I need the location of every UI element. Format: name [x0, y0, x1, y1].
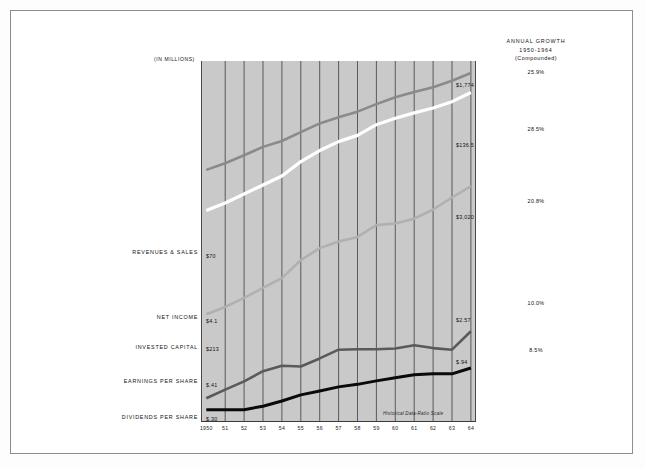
series-start-value: $213: [206, 346, 219, 352]
x-axis-tick: 61: [411, 425, 417, 431]
x-axis-tick: 53: [260, 425, 266, 431]
x-axis-tick: 51: [222, 425, 228, 431]
x-axis-tick: 64: [468, 425, 474, 431]
plot-lines: [201, 61, 476, 421]
series-start-value: $4.1: [206, 318, 218, 324]
series-label: DIVIDENDS PER SHARE: [122, 414, 198, 420]
series-label: EARNINGS PER SHARE: [124, 378, 198, 384]
annual-growth-value: 8.5%: [481, 347, 591, 353]
annual-growth-value: 20.8%: [481, 198, 591, 204]
series-end-value: $3,020: [456, 214, 474, 220]
series-start-value: $70: [206, 253, 216, 259]
x-axis-tick-labels: 19505152535455565758596061626364: [201, 425, 476, 439]
annual-growth-header: ANNUAL GROWTH 1950-1964 (Compounded): [481, 37, 591, 63]
scale-note: Historical Data-Ratio Scale: [383, 411, 443, 416]
series-label: NET INCOME: [157, 314, 198, 320]
x-axis-tick: 62: [430, 425, 436, 431]
x-axis-tick: 57: [335, 425, 341, 431]
x-axis-tick: 63: [449, 425, 455, 431]
series-end-value: $2.57: [456, 317, 471, 323]
series-label-column: REVENUES & SALESNET INCOMEINVESTED CAPIT…: [31, 11, 198, 468]
plot-area: $70$4.1$213$.41$.30$1,774$136.5$3,020$2.…: [201, 61, 476, 421]
annual-growth-title: ANNUAL GROWTH: [481, 37, 591, 46]
annual-growth-value: 25.9%: [481, 69, 591, 75]
x-axis-tick: 60: [392, 425, 398, 431]
x-axis-line: [201, 421, 476, 422]
annual-growth-period: 1950-1964: [481, 46, 591, 55]
series-label: INVESTED CAPITAL: [135, 344, 198, 350]
x-axis-tick: 54: [279, 425, 285, 431]
x-axis-tick: 55: [298, 425, 304, 431]
annual-growth-column: ANNUAL GROWTH 1950-1964 (Compounded) 25.…: [481, 37, 591, 377]
x-axis-tick: 56: [317, 425, 323, 431]
series-end-value: $1,774: [456, 82, 474, 88]
annual-growth-value: 28.5%: [481, 126, 591, 132]
page-frame: (IN MILLIONS) REVENUES & SALESNET INCOME…: [10, 10, 633, 454]
chart-page: (IN MILLIONS) REVENUES & SALESNET INCOME…: [0, 0, 645, 468]
x-axis-tick: 1950: [200, 425, 213, 431]
annual-growth-compounded: (Compounded): [481, 54, 591, 63]
x-axis-tick: 59: [373, 425, 379, 431]
x-axis-tick: 58: [354, 425, 360, 431]
series-start-value: $.41: [206, 382, 218, 388]
series-end-value: $.94: [456, 359, 468, 365]
series-end-value: $136.5: [456, 142, 474, 148]
series-label: REVENUES & SALES: [132, 249, 198, 255]
x-axis-tick: 52: [241, 425, 247, 431]
annual-growth-value: 10.0%: [481, 300, 591, 306]
